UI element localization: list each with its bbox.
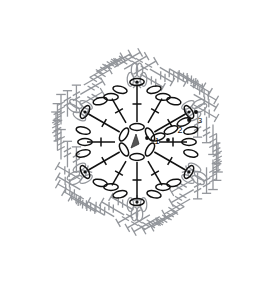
spoke-upper-right [86, 110, 122, 136]
round-label-1: 1 [154, 136, 159, 146]
marker-dot-1a [145, 136, 149, 140]
marker-dot-2 [187, 118, 191, 122]
spoke-upper-left [86, 148, 122, 174]
round1-center-ring [117, 124, 156, 161]
join-dot-lower-right [187, 170, 190, 173]
spoke-mid-6 [87, 138, 115, 147]
start-arrow-icon [131, 134, 139, 148]
join-dot-lower-left [83, 170, 86, 173]
join-dot-upper-left [83, 110, 86, 113]
spoke-right [133, 86, 142, 122]
petal-lower-right [146, 85, 181, 107]
crochet-motif-diagram: 1 2 3 [0, 0, 267, 284]
marker-dot-3 [194, 110, 198, 114]
join-dot-upper-right [187, 110, 190, 113]
join-dot-bottom [135, 200, 138, 203]
spoke-lower-left [152, 148, 188, 174]
crochet-chart-canvas: 1 2 3 [0, 0, 267, 284]
join-dot-top [135, 80, 138, 83]
petal-upper-left [92, 178, 127, 200]
round-label-2: 2 [177, 125, 182, 135]
marker-dot-1 [166, 138, 170, 142]
round-label-3: 3 [198, 116, 203, 125]
spoke-left [133, 162, 142, 198]
